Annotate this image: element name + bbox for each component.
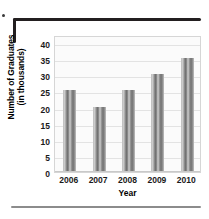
bar-slot — [55, 90, 84, 171]
y-axis-tick-label: 15 — [41, 121, 50, 131]
y-axis-title-line-2: (in thousands) — [16, 48, 27, 105]
bar — [181, 58, 194, 171]
x-axis-title: Year — [54, 188, 201, 198]
chart-figure: Number of Graduates (in thousands) 40353… — [0, 0, 209, 219]
bar — [122, 90, 135, 171]
bar-slot — [114, 90, 143, 171]
x-axis-tick-label: 2006 — [59, 175, 78, 185]
bottom-divider-rule — [11, 206, 201, 208]
x-axis-tick-label: 2008 — [118, 175, 137, 185]
y-axis-tick-label: 20 — [41, 105, 50, 115]
x-axis-line — [55, 171, 200, 172]
y-axis-tick-label: 30 — [41, 72, 50, 82]
x-axis-tick-label: 2007 — [89, 175, 108, 185]
y-axis-tick-label: 10 — [41, 137, 50, 147]
x-axis-tick-label: 2010 — [177, 175, 196, 185]
bar-slot — [84, 107, 113, 172]
bracket-horizontal-rule — [13, 18, 201, 21]
plot-area: 4035302520151050 — [54, 36, 201, 173]
bracket-vertical-rule — [13, 18, 16, 43]
y-axis-title-line-1: Number of Graduates — [6, 35, 17, 120]
bar-series — [55, 37, 200, 172]
y-axis-tick-label: 0 — [45, 169, 50, 179]
x-axis-tick-label: 2009 — [147, 175, 166, 185]
bar — [93, 107, 106, 172]
y-axis-tick-label: 40 — [41, 40, 50, 50]
bar — [63, 90, 76, 171]
y-axis-title: Number of Graduates (in thousands) — [1, 17, 31, 137]
corner-dot-icon — [2, 14, 5, 17]
bar-slot — [143, 74, 172, 171]
bar-slot — [173, 58, 202, 171]
bar — [151, 74, 164, 171]
y-axis-tick-label: 5 — [45, 153, 50, 163]
y-axis-tick-label: 25 — [41, 88, 50, 98]
y-axis-tick-label: 35 — [41, 56, 50, 66]
